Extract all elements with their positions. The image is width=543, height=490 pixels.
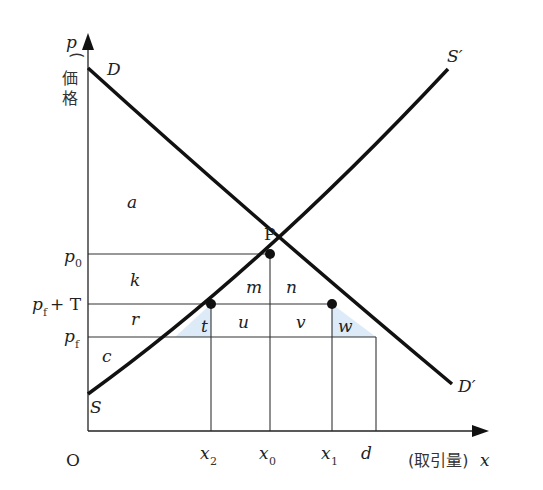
svg-text:f: f — [43, 306, 48, 319]
y-axis-open-paren: ( — [68, 52, 87, 58]
svg-text:p: p — [64, 246, 75, 266]
demand-start-label: D — [106, 59, 121, 79]
supply-point-dot — [206, 299, 216, 309]
quantity-label-x2: x 2 — [200, 443, 217, 468]
svg-text:0: 0 — [75, 257, 82, 270]
y-axis-label-char2: 格 — [62, 89, 78, 108]
region-t-label: t — [201, 316, 208, 336]
equilibrium-dot — [265, 249, 275, 259]
supply-demand-diagram: p ( 価 格 O (取引量) x D D′ S S′ P p 0 p f + … — [0, 0, 543, 490]
region-w-label: w — [338, 316, 353, 336]
svg-text:p: p — [32, 294, 43, 314]
region-n-label: n — [286, 277, 297, 297]
svg-text:f: f — [75, 338, 80, 351]
equilibrium-label: P — [264, 224, 275, 244]
region-k-label: k — [130, 270, 140, 290]
supply-start-label: S — [90, 397, 102, 417]
x-axis-label: (取引量) — [408, 451, 469, 470]
svg-text:0: 0 — [269, 455, 276, 468]
region-c-label: c — [102, 346, 112, 366]
y-axis-arrow-icon — [82, 33, 94, 50]
region-a-label: a — [127, 192, 137, 212]
origin-label: O — [66, 450, 80, 470]
y-axis-label-char1: 価 — [62, 69, 78, 88]
quantity-label-x0: x 0 — [259, 443, 276, 468]
region-u-label: u — [238, 312, 249, 332]
demand-point-dot — [327, 299, 337, 309]
x-axis-symbol: x — [480, 450, 490, 470]
svg-text:x: x — [259, 443, 269, 463]
price-label-p0: p 0 — [64, 246, 82, 270]
y-axis-symbol: p — [66, 32, 77, 52]
x-axis — [88, 425, 489, 437]
supply-end-label: S′ — [447, 46, 463, 66]
svg-text:p: p — [64, 326, 75, 346]
x-axis-arrow-icon — [472, 425, 489, 437]
svg-text:2: 2 — [210, 455, 217, 468]
svg-text:1: 1 — [331, 455, 338, 468]
region-r-label: r — [131, 309, 140, 329]
svg-text:x: x — [200, 443, 210, 463]
y-axis — [82, 33, 94, 431]
quantity-label-d: d — [361, 443, 372, 463]
svg-text:x: x — [321, 443, 331, 463]
price-label-pf: p f — [64, 326, 80, 351]
price-label-pf-plus-t: p f + T — [32, 294, 82, 319]
svg-text:+ T: + T — [50, 294, 82, 314]
region-m-label: m — [246, 277, 262, 297]
region-v-label: v — [296, 312, 306, 332]
demand-end-label: D′ — [457, 376, 476, 396]
quantity-label-x1: x 1 — [321, 443, 338, 468]
